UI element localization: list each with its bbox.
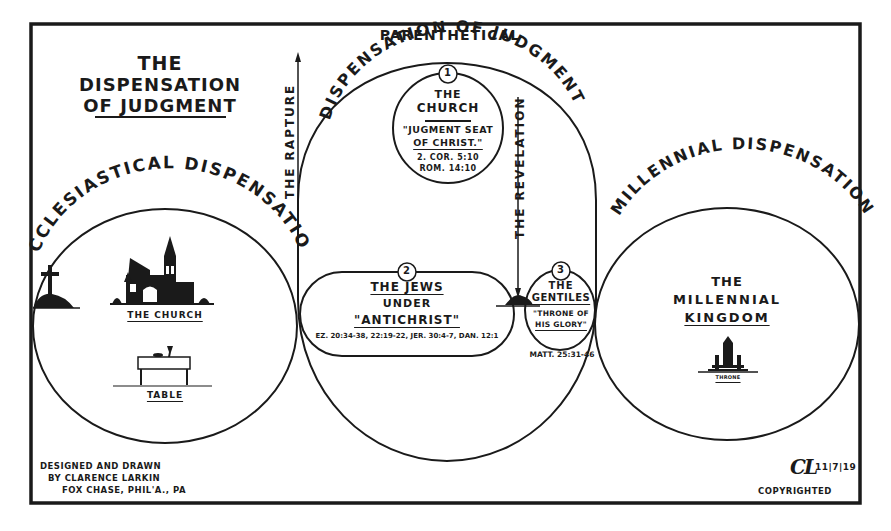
millennial-line1: THE	[677, 274, 777, 289]
parenthetical-heading: PARENTHETICAL	[360, 27, 540, 43]
gentiles-line2: GENTILES	[524, 292, 598, 303]
church-building-icon	[110, 236, 214, 304]
credits-line3: FOX CHASE, PHIL'A., PA	[62, 485, 186, 495]
gentiles-ref: MATT. 25:31-46	[522, 350, 602, 359]
church-quote-line2: OF CHRIST."	[398, 137, 498, 148]
throne-label: THRONE	[703, 374, 753, 380]
badge-1-label: 1	[443, 67, 453, 78]
millennial-line2: MILLENNIAL	[657, 292, 797, 307]
gentiles-quote1: "THRONE OF	[522, 309, 600, 318]
jews-line1: THE JEWS	[357, 280, 457, 294]
rapture-arrowhead-icon	[295, 52, 301, 62]
title-line3: OF JUDGMENT	[60, 95, 260, 116]
church-quote-line1: "JUGMENT SEAT	[393, 124, 503, 135]
ecclesiastical-circle	[33, 209, 297, 443]
church-judgment-line2: CHURCH	[398, 101, 498, 115]
credits-line2: BY CLARENCE LARKIN	[48, 473, 160, 483]
table-label: TABLE	[115, 390, 215, 400]
copyright-label: COPYRIGHTED	[758, 486, 832, 496]
communion-table-icon	[113, 346, 212, 386]
church-judgment-line1: THE	[398, 88, 498, 101]
jews-line2: UNDER	[357, 297, 457, 310]
revelation-label: THE REVELATION	[513, 129, 527, 239]
millennial-arc-label: MILLENNIAL DISPENSATION	[607, 134, 879, 219]
monogram-icon: CL	[790, 455, 816, 479]
gentiles-line1: THE	[526, 280, 596, 291]
badge-2-label: 2	[402, 265, 412, 276]
title-line2: DISPENSATION	[60, 74, 260, 95]
church-divider	[425, 120, 471, 122]
dispensation-diagram: ECCLESIASTICAL DISPENSATION DISPENSATION…	[0, 0, 891, 531]
gentiles-quote2: HIS GLORY"	[522, 320, 600, 329]
church-ref1: 2. COR. 5:10	[398, 153, 498, 162]
title-line1: THE	[60, 52, 260, 74]
jews-line3: "ANTICHRIST"	[347, 313, 467, 327]
millennial-line3: KINGDOM	[677, 310, 777, 325]
jews-ref: EZ. 20:34-38, 22:19-22, JER. 30:4-7, DAN…	[305, 332, 509, 340]
church-ref2: ROM. 14:10	[398, 164, 498, 173]
badge-3-label: 3	[556, 264, 566, 275]
rapture-label: THE RAPTURE	[283, 99, 297, 199]
credits-line1: DESIGNED AND DRAWN	[40, 461, 161, 471]
throne-icon	[698, 336, 758, 372]
ecclesiastical-arc-label: ECCLESIASTICAL DISPENSATION	[0, 0, 315, 255]
church-label: THE CHURCH	[115, 310, 215, 320]
signature-date: 11|7|19	[815, 462, 856, 472]
